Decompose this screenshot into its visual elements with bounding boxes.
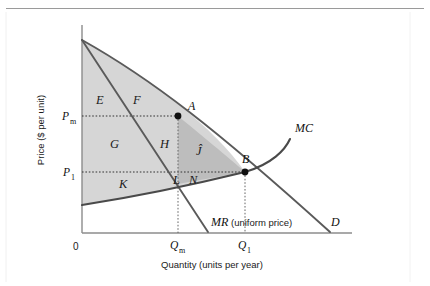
region-label-g: G xyxy=(110,137,119,151)
point-a-label: A xyxy=(187,99,196,113)
point-b-label: B xyxy=(242,152,250,166)
q1-tick-sub: 1 xyxy=(247,246,251,255)
region-label-e: E xyxy=(95,93,104,107)
pm-tick-sub: m xyxy=(70,117,77,126)
mr-curve-label-group: MR (uniform price) xyxy=(210,215,292,229)
mc-curve-label: MC xyxy=(294,121,314,135)
y-axis-title: Price ($ per unit) xyxy=(35,95,46,165)
p1-tick-sub: 1 xyxy=(71,173,75,182)
point-b-marker xyxy=(242,169,249,176)
qm-tick-base: Q xyxy=(170,239,179,251)
region-label-k: K xyxy=(118,177,128,191)
price-discrimination-diagram: A B E F G H Ĵ K L N MC D MR (uniform pri… xyxy=(0,0,430,286)
pm-tick-base: P xyxy=(61,110,69,122)
p1-tick-base: P xyxy=(62,166,70,178)
origin-label: 0 xyxy=(73,241,79,252)
mr-curve-label: MR xyxy=(210,215,229,229)
demand-curve-label: D xyxy=(330,215,340,229)
economics-figure: A B E F G H Ĵ K L N MC D MR (uniform pri… xyxy=(0,0,430,286)
region-label-f: F xyxy=(132,93,141,107)
region-label-l: L xyxy=(172,173,180,187)
x-axis-title: Quantity (units per year) xyxy=(161,259,263,270)
point-a-marker xyxy=(175,113,182,120)
mr-curve-note: (uniform price) xyxy=(231,217,292,228)
qm-tick-sub: m xyxy=(179,246,186,255)
region-label-h: H xyxy=(159,137,170,151)
q1-tick-base: Q xyxy=(238,239,247,251)
region-label-n: N xyxy=(188,173,198,187)
